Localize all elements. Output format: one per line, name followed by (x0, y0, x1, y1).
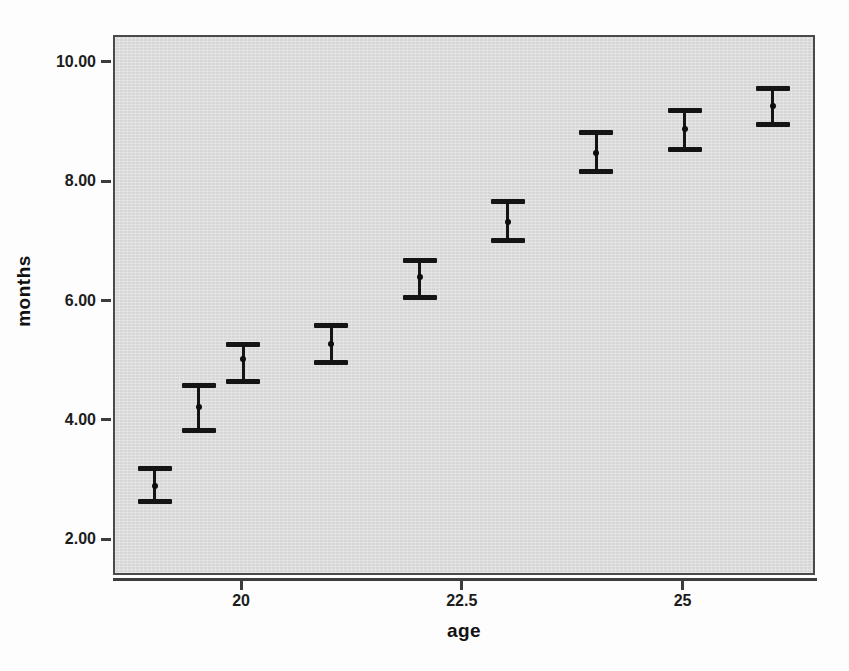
error-bar-lower-cap (182, 428, 216, 433)
x-axis-line (113, 578, 817, 581)
x-axis-tick (681, 581, 684, 590)
error-bar-chart: 10.008.006.004.002.00 2022.525 age month… (0, 0, 849, 671)
mean-point-marker (152, 483, 158, 489)
error-bar-lower-cap (226, 379, 260, 384)
plot-area (113, 35, 815, 575)
mean-point-marker (417, 274, 423, 280)
plot-background-texture (115, 37, 813, 573)
y-axis-tick (101, 418, 111, 421)
x-axis-tick-label: 22.5 (446, 592, 477, 610)
y-axis-tick-label-wrap: 2.00 (0, 539, 96, 557)
mean-point-marker (593, 150, 599, 156)
y-axis-tick (101, 538, 111, 541)
error-bar-lower-cap (403, 295, 437, 300)
x-axis-tick-label: 25 (674, 592, 692, 610)
x-axis-tick (460, 581, 463, 590)
x-axis-tick (240, 581, 243, 590)
error-bar-lower-cap (668, 147, 702, 152)
mean-point-marker (240, 356, 246, 362)
y-axis-tick (101, 180, 111, 183)
error-bar-lower-cap (138, 499, 172, 504)
y-axis-tick (101, 60, 111, 63)
y-axis-tick-label: 10.00 (0, 53, 96, 71)
error-bar-lower-cap (756, 122, 790, 127)
y-axis-tick-label: 2.00 (0, 530, 96, 548)
mean-point-marker (770, 103, 776, 109)
error-bar-stem (242, 344, 245, 381)
y-axis-tick-label-wrap: 4.00 (0, 420, 96, 438)
mean-point-marker (505, 219, 511, 225)
y-axis-tick (101, 299, 111, 302)
y-axis-title: months (13, 255, 35, 327)
x-axis-title: age (113, 620, 815, 642)
mean-point-marker (328, 341, 334, 347)
y-axis-tick-label: 4.00 (0, 411, 96, 429)
y-axis-tick-label: 8.00 (0, 172, 96, 190)
error-bar-lower-cap (579, 169, 613, 174)
error-bar-lower-cap (314, 360, 348, 365)
x-axis-tick-label: 20 (232, 592, 250, 610)
y-axis-tick-label-wrap: 10.00 (0, 62, 96, 80)
mean-point-marker (196, 404, 202, 410)
y-axis-tick-label-wrap: 8.00 (0, 181, 96, 199)
error-bar-lower-cap (491, 238, 525, 243)
